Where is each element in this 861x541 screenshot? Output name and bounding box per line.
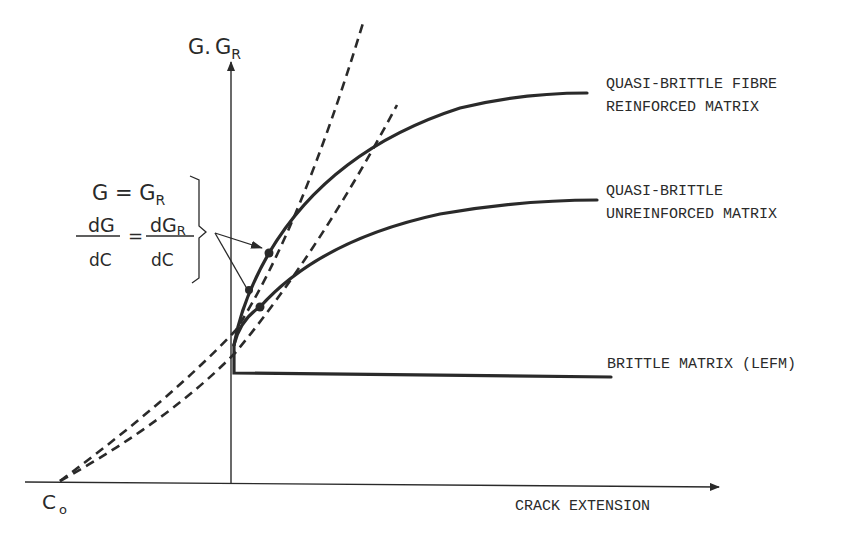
resistance-curves: [234, 93, 611, 377]
y-axis-label: G.GR: [188, 35, 241, 62]
instability-condition: G = GR dG dC = dGR dC: [76, 176, 262, 294]
curve-brittle: [234, 345, 611, 377]
x-axis: [25, 482, 719, 487]
label-fibre-line1: QUASI-BRITTLE FIBRE: [606, 76, 777, 93]
tangent-point-fibre: [265, 249, 274, 258]
label-unreinforced-line1: QUASI-BRITTLE: [606, 183, 723, 200]
origin-label: Co: [42, 490, 67, 517]
condition-g-equals-gr: G = GR: [92, 181, 166, 208]
tangent-points: [245, 249, 274, 312]
crack-resistance-diagram: G.GR Co CRACK EXTENSION G = GR dG dC = d…: [0, 0, 861, 541]
tangent-point-unreinforced: [256, 303, 265, 312]
dashed-g-curve-lower: [60, 105, 397, 481]
label-brittle: BRITTLE MATRIX (LEFM): [607, 356, 796, 373]
right-brace: [190, 176, 206, 283]
curve-fibre-reinforced: [234, 93, 587, 345]
frac1-numerator: dG: [88, 214, 115, 236]
label-unreinforced-line2: UNREINFORCED MATRIX: [606, 206, 777, 223]
label-fibre-line2: REINFORCED MATRIX: [606, 99, 759, 116]
x-axis-label: CRACK EXTENSION: [515, 498, 650, 515]
curve-labels: QUASI-BRITTLE FIBRE REINFORCED MATRIX QU…: [606, 76, 796, 373]
frac2-denominator: dC: [151, 250, 174, 270]
frac1-denominator: dC: [89, 250, 112, 270]
equals-sign: =: [128, 225, 143, 246]
axes: [25, 62, 719, 487]
frac2-numerator: dGR: [150, 214, 186, 238]
